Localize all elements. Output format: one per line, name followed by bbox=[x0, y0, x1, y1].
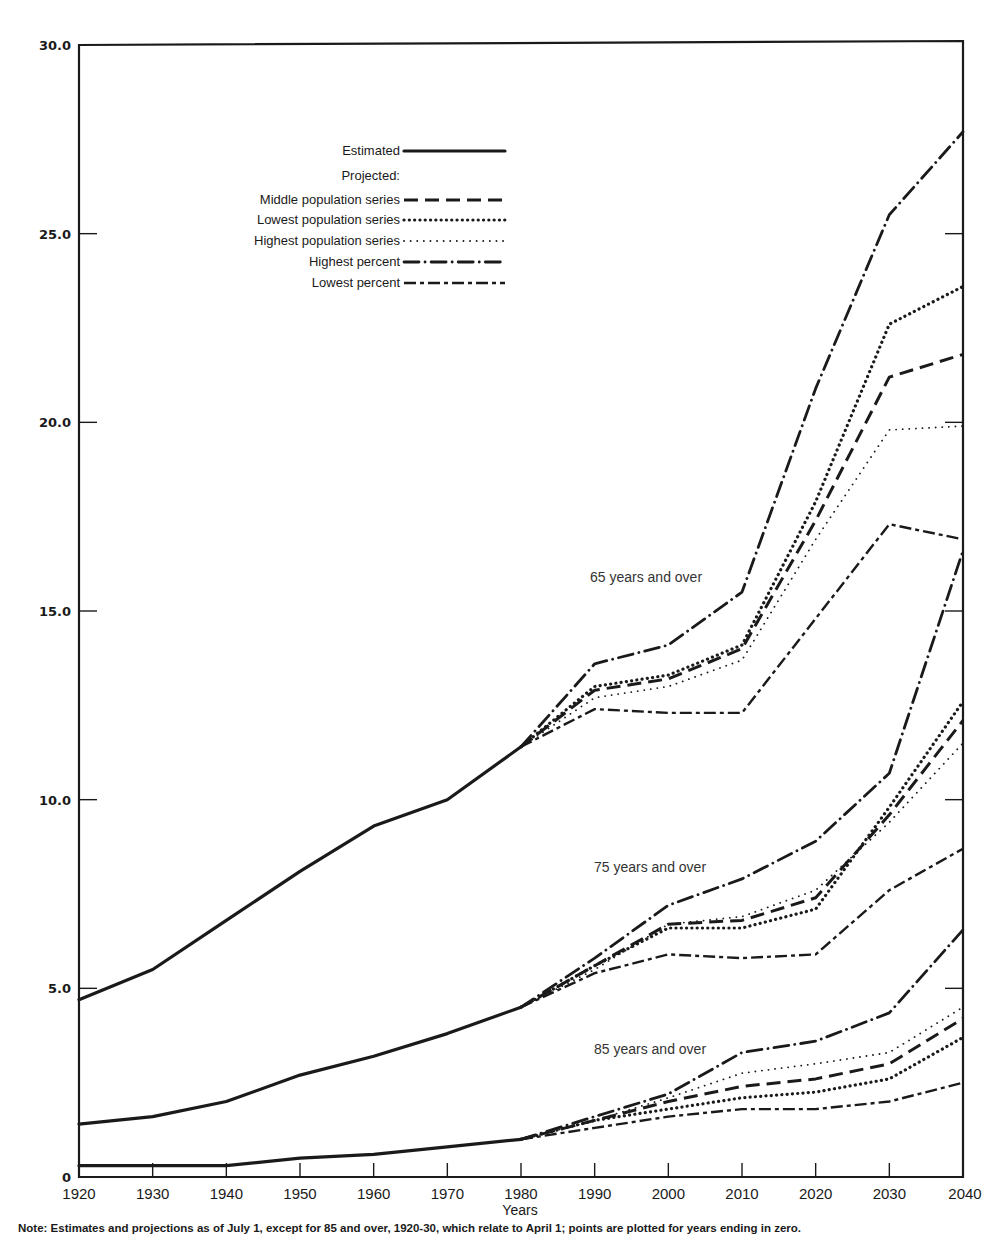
legend-label: Highest population series bbox=[254, 233, 400, 248]
x-tick-label: 1930 bbox=[136, 1185, 169, 1202]
series-group bbox=[79, 132, 963, 1000]
series-line-middle bbox=[521, 354, 963, 746]
x-tick-label: 1990 bbox=[578, 1185, 611, 1202]
series-line-estimated bbox=[79, 1139, 521, 1165]
group-annotation: 75 years and over bbox=[594, 859, 706, 875]
x-tick-label: 2030 bbox=[873, 1185, 906, 1202]
x-axis-title: Years bbox=[502, 1202, 537, 1218]
legend-label: Lowest population series bbox=[257, 212, 401, 227]
series-group bbox=[79, 930, 963, 1166]
x-tick-label: 1940 bbox=[210, 1185, 243, 1202]
series-group bbox=[79, 551, 963, 1125]
x-tick-label: 2040 bbox=[948, 1185, 981, 1202]
series-line-lowest-pop bbox=[521, 287, 963, 747]
series-line-highest-pop bbox=[521, 426, 963, 747]
series-line-estimated bbox=[79, 1007, 521, 1124]
y-tick-label: 15.0 bbox=[39, 604, 71, 619]
legend-item: Middle population series bbox=[260, 192, 505, 207]
series-line-lowest-pct bbox=[521, 849, 963, 1008]
legend-item: Projected: bbox=[341, 168, 400, 183]
y-tick-label: 20.0 bbox=[39, 415, 71, 430]
series-line-highest-pop bbox=[521, 743, 963, 1007]
x-tick-label: 1980 bbox=[504, 1185, 537, 1202]
x-tick-label: 1960 bbox=[357, 1185, 390, 1202]
y-tick-label: 0 bbox=[62, 1170, 71, 1185]
group-labels: 65 years and over75 years and over85 yea… bbox=[590, 569, 706, 1057]
x-tick-label: 2010 bbox=[725, 1185, 758, 1202]
x-tick-label: 2020 bbox=[799, 1185, 832, 1202]
legend-label: Middle population series bbox=[260, 192, 401, 207]
legend-label: Projected: bbox=[341, 168, 400, 183]
group-annotation: 65 years and over bbox=[590, 569, 702, 585]
legend-label: Lowest percent bbox=[312, 275, 401, 290]
series-line-lowest-pct bbox=[521, 1083, 963, 1140]
x-tick-label: 1920 bbox=[62, 1185, 95, 1202]
y-tick-label: 5.0 bbox=[48, 981, 71, 996]
legend-item: Estimated bbox=[342, 143, 505, 158]
legend-item: Lowest percent bbox=[312, 275, 505, 290]
legend-item: Lowest population series bbox=[257, 212, 505, 227]
y-tick-label: 10.0 bbox=[39, 793, 71, 808]
legend-item: Highest percent bbox=[309, 254, 505, 269]
legend: EstimatedProjected:Middle population ser… bbox=[254, 143, 505, 290]
x-axis: 1920193019401950196019701980199020002010… bbox=[62, 1163, 981, 1202]
x-tick-label: 1970 bbox=[431, 1185, 464, 1202]
x-tick-label: 2000 bbox=[652, 1185, 685, 1202]
line-chart: 05.010.015.020.025.030.0 192019301940195… bbox=[0, 0, 1007, 1247]
series-line-middle bbox=[521, 720, 963, 1007]
legend-label: Highest percent bbox=[309, 254, 400, 269]
series-layer bbox=[79, 132, 963, 1166]
group-annotation: 85 years and over bbox=[594, 1041, 706, 1057]
footnote: Note: Estimates and projections as of Ju… bbox=[18, 1222, 801, 1234]
series-line-highest-pct bbox=[521, 930, 963, 1140]
series-line-highest-pct bbox=[521, 551, 963, 1008]
x-tick-label: 1950 bbox=[283, 1185, 316, 1202]
legend-label: Estimated bbox=[342, 143, 400, 158]
series-line-lowest-pct bbox=[521, 524, 963, 747]
series-line-estimated bbox=[79, 747, 521, 1000]
y-tick-label: 25.0 bbox=[39, 227, 71, 242]
legend-item: Highest population series bbox=[254, 233, 505, 248]
y-tick-label: 30.0 bbox=[39, 38, 71, 53]
series-line-highest-pct bbox=[521, 132, 963, 747]
